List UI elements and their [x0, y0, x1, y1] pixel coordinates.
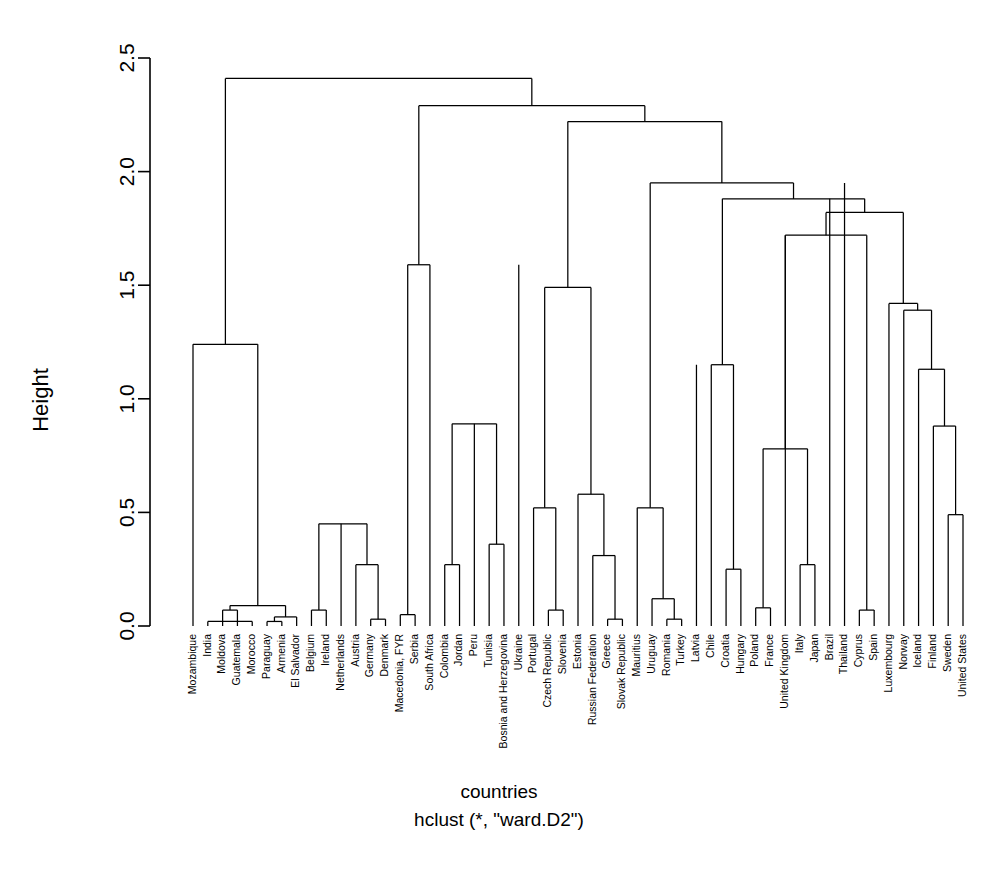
leaf-label: Ireland	[319, 634, 331, 666]
leaf-label: Jordan	[452, 634, 464, 666]
leaf-label: Mauritius	[630, 634, 642, 677]
leaf-label: Guatemala	[230, 634, 242, 686]
dendrogram-figure: 0.00.51.01.52.02.5 MozambiqueIndiaMoldov…	[0, 0, 998, 874]
leaf-label: Slovenia	[556, 634, 568, 674]
leaf-label: United States	[956, 634, 968, 697]
leaf-labels: MozambiqueIndiaMoldovaGuatemalaMoroccoPa…	[186, 633, 968, 748]
leaf-label: Latvia	[689, 634, 701, 662]
method-caption: hclust (*, "ward.D2")	[414, 809, 584, 830]
y-axis-title: Height	[28, 368, 53, 432]
leaf-label: Portugal	[526, 634, 538, 673]
leaf-label: Tunisia	[482, 634, 494, 668]
leaf-label: Austria	[349, 634, 361, 667]
leaf-label: Netherlands	[334, 634, 346, 691]
y-axis-tick-label: 0.5	[115, 498, 138, 527]
leaf-label: Japan	[808, 634, 820, 663]
leaf-label: United Kingdom	[778, 634, 790, 709]
leaf-label: Cyprus	[852, 634, 864, 667]
leaf-label: Turkey	[674, 633, 686, 665]
leaf-label: Colombia	[438, 634, 450, 679]
leaf-label: Poland	[748, 634, 760, 667]
leaf-label: Norway	[897, 633, 909, 669]
leaf-label: Germany	[363, 633, 375, 677]
leaf-label: Russian Federation	[586, 634, 598, 725]
leaf-label: South Africa	[423, 634, 435, 691]
leaf-label: Croatia	[719, 634, 731, 668]
leaf-label: Morocco	[245, 634, 257, 674]
leaf-label: Chile	[704, 634, 716, 658]
dendrogram-tree	[193, 78, 963, 626]
leaf-label: Macedonia, FYR	[393, 634, 405, 713]
leaf-label: Sweden	[941, 634, 953, 672]
leaf-label: Hungary	[734, 633, 746, 673]
leaf-label: Uruguay	[645, 633, 657, 673]
leaf-label: Belgium	[304, 634, 316, 672]
y-axis-tick-label: 1.0	[115, 384, 138, 413]
x-axis-title: countries	[460, 781, 537, 802]
leaf-label: Iceland	[911, 634, 923, 668]
leaf-label: Luxembourg	[882, 634, 894, 693]
leaf-label: Paraguay	[260, 633, 272, 679]
y-axis-tick-label: 2.5	[115, 43, 138, 72]
leaf-label: France	[763, 634, 775, 667]
leaf-label: Finland	[926, 634, 938, 669]
y-axis-tick-label: 0.0	[115, 611, 138, 640]
leaf-label: Moldova	[215, 634, 227, 674]
leaf-label: El Salvador	[289, 634, 301, 688]
leaf-label: Thailand	[837, 634, 849, 674]
leaf-label: Ukraine	[512, 634, 524, 670]
leaf-label: Denmark	[378, 633, 390, 676]
leaf-label: Czech Republic	[541, 634, 553, 708]
leaf-label: Bosnia and Herzegovina	[497, 634, 509, 749]
leaf-label: Brazil	[823, 634, 835, 660]
leaf-label: Romania	[660, 634, 672, 676]
leaf-label: Armenia	[275, 634, 287, 673]
y-axis-tick-label: 2.0	[115, 157, 138, 186]
leaf-label: Spain	[867, 634, 879, 661]
leaf-label: Greece	[600, 634, 612, 669]
leaf-label: Mozambique	[186, 634, 198, 694]
y-axis: 0.00.51.01.52.02.5	[115, 43, 150, 640]
leaf-label: India	[201, 634, 213, 657]
leaf-label: Italy	[793, 633, 805, 653]
leaf-label: Estonia	[571, 634, 583, 669]
dendrogram-svg: 0.00.51.01.52.02.5 MozambiqueIndiaMoldov…	[0, 0, 998, 874]
leaf-label: Peru	[467, 634, 479, 656]
leaf-label: Slovak Republic	[615, 634, 627, 709]
y-axis-tick-label: 1.5	[115, 271, 138, 300]
leaf-label: Serbia	[408, 634, 420, 665]
